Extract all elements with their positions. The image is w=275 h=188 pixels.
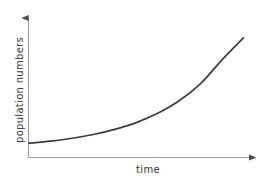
x-axis-label: time [118,164,178,175]
chart-figure: population numbers time [0,0,275,188]
exponential-growth-curve [29,38,244,143]
y-axis-label-text: population numbers [14,37,25,143]
chart-plot-area [0,0,275,188]
y-axis-label: population numbers [0,33,16,143]
